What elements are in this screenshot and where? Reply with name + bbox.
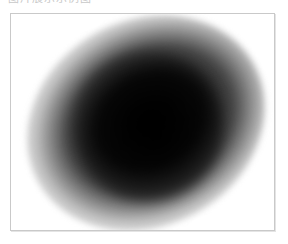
caption-text-cutoff: 图片展示示例图 bbox=[8, 0, 120, 4]
image-frame bbox=[10, 13, 275, 231]
dark-blob-core bbox=[73, 52, 223, 202]
